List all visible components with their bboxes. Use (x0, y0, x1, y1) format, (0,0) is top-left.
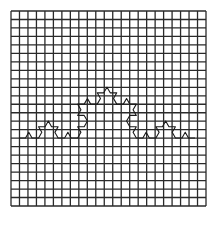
koch-curve-figure (0, 0, 222, 243)
